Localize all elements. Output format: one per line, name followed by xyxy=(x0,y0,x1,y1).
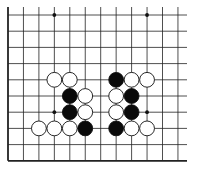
black-stone[interactable] xyxy=(109,121,124,136)
stones xyxy=(32,72,155,135)
white-stone[interactable] xyxy=(78,105,93,120)
white-stone[interactable] xyxy=(78,89,93,104)
white-stone[interactable] xyxy=(140,121,155,136)
white-stone[interactable] xyxy=(47,72,62,87)
white-stone[interactable] xyxy=(47,121,62,136)
white-stone[interactable] xyxy=(140,72,155,87)
black-stone[interactable] xyxy=(124,105,139,120)
white-stone[interactable] xyxy=(62,121,77,136)
star-point-icon xyxy=(52,13,56,17)
star-point-icon xyxy=(145,13,149,17)
white-stone[interactable] xyxy=(109,105,124,120)
white-stone[interactable] xyxy=(32,121,47,136)
star-point-icon xyxy=(145,110,149,114)
white-stone[interactable] xyxy=(124,72,139,87)
white-stone[interactable] xyxy=(124,121,139,136)
black-stone[interactable] xyxy=(109,72,124,87)
black-stone[interactable] xyxy=(124,89,139,104)
board-grid xyxy=(8,7,187,161)
star-point-icon xyxy=(52,110,56,114)
black-stone[interactable] xyxy=(78,121,93,136)
black-stone[interactable] xyxy=(62,105,77,120)
black-stone[interactable] xyxy=(62,89,77,104)
white-stone[interactable] xyxy=(62,72,77,87)
white-stone[interactable] xyxy=(109,89,124,104)
go-board[interactable] xyxy=(0,0,198,170)
